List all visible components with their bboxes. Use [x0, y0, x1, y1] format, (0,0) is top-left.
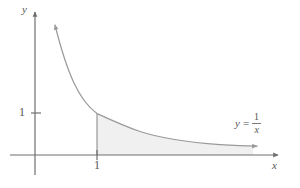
- fraction-denominator: x: [252, 124, 260, 135]
- curve-y-equals-one-over-x: [55, 25, 257, 146]
- equation-left-side: y: [235, 118, 240, 129]
- y-axis-tick-label-one: 1: [19, 106, 25, 118]
- equation-fraction: 1 x: [252, 112, 261, 135]
- equation-equals-sign: =: [243, 118, 249, 129]
- curve-equation-label: y = 1 x: [235, 112, 261, 135]
- graph-svg: [0, 0, 300, 188]
- x-axis-tick-label-one: 1: [94, 159, 100, 171]
- fraction-numerator: 1: [252, 112, 261, 123]
- x-axis-label: x: [272, 160, 277, 171]
- shaded-area-under-curve: [97, 114, 253, 156]
- y-axis-label: y: [22, 4, 27, 15]
- figure-canvas: y x 1 1 y = 1 x: [0, 0, 300, 188]
